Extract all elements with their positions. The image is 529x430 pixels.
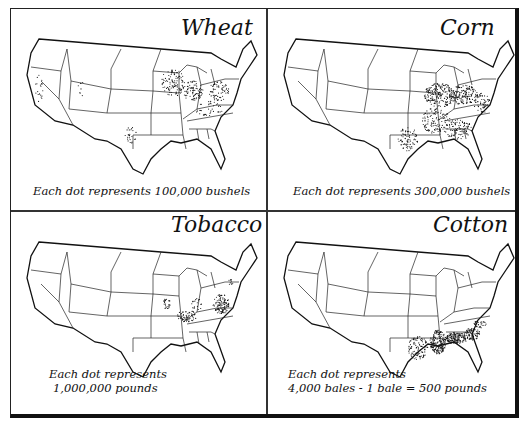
panel-title: Corn xyxy=(440,15,495,40)
panel-corn: Corn Each dot represents 300,000 bushels xyxy=(268,9,521,207)
panel-wheat: Wheat Each dot represents 100,000 bushel… xyxy=(11,9,264,207)
figure-frame: Wheat Each dot represents 100,000 bushel… xyxy=(10,8,519,418)
panel-title: Cotton xyxy=(433,212,508,237)
dot-legend: Each dot represents 300,000 bushels xyxy=(293,184,510,198)
panel-title: Tobacco xyxy=(171,212,262,237)
dot-legend: Each dot represents 4,000 bales - 1 bale… xyxy=(288,367,487,395)
panel-cotton: Cotton Each dot represents 4,000 bales -… xyxy=(268,212,521,410)
us-outline xyxy=(27,39,257,174)
panel-title: Wheat xyxy=(181,15,253,40)
panel-tobacco: Tobacco Each dot represents 1,000,000 po… xyxy=(11,212,264,410)
us-outline xyxy=(284,39,514,174)
dot-legend: Each dot represents 100,000 bushels xyxy=(33,184,250,198)
dot-legend: Each dot represents 1,000,000 pounds xyxy=(49,367,167,395)
us-outline xyxy=(284,242,514,377)
